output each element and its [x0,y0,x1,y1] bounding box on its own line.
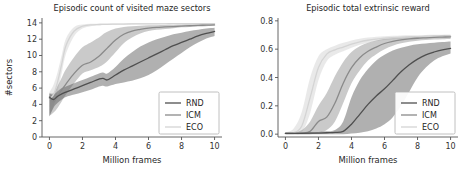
legend-label-eco: ECO [186,123,203,132]
y-tick-label: 10 [27,51,37,60]
chart-maze-sectors: Episodic count of visited maze sectors02… [0,0,236,174]
legend-label-rnd: RND [186,99,204,108]
chart-title: Episodic count of visited maze sectors [54,3,211,13]
chart-extrinsic-reward: Episodic total extrinsic reward02468100.… [236,0,472,174]
x-tick-label: 0 [47,142,52,151]
x-axis-label: Million frames [339,155,398,165]
panel-extrinsic-reward: Episodic total extrinsic reward02468100.… [236,0,472,174]
x-tick-label: 6 [382,142,387,151]
legend-label-icm: ICM [186,111,201,120]
y-tick-label: 12 [27,35,37,44]
x-tick-label: 8 [179,142,184,151]
x-tick-label: 4 [113,142,118,151]
panel-maze-sectors: Episodic count of visited maze sectors02… [0,0,236,174]
x-tick-label: 10 [209,142,219,151]
y-tick-label: 0.2 [260,102,273,111]
y-tick-label: 4 [32,100,37,109]
legend: RNDICMECO [159,92,219,134]
x-tick-label: 0 [283,142,288,151]
x-tick-label: 4 [349,142,354,151]
legend-label-eco: ECO [422,123,439,132]
y-tick-label: 0 [32,133,37,142]
y-axis-label: #sectors [4,59,14,96]
figure-two-panel-line-charts: Episodic count of visited maze sectors02… [0,0,472,174]
x-tick-label: 8 [415,142,420,151]
y-tick-label: 0.8 [260,17,273,26]
x-tick-label: 6 [146,142,151,151]
legend-label-icm: ICM [422,111,437,120]
y-tick-label: 0.0 [260,130,273,139]
legend: RNDICMECO [395,92,455,134]
y-tick-label: 8 [32,68,37,77]
y-tick-label: 14 [27,19,37,28]
y-tick-label: 0.6 [260,45,273,54]
legend-label-rnd: RND [422,99,440,108]
x-tick-label: 10 [445,142,455,151]
y-tick-label: 2 [32,117,37,126]
chart-title: Episodic total extrinsic reward [306,3,430,13]
y-tick-label: 6 [32,84,37,93]
x-tick-label: 2 [80,142,85,151]
x-tick-label: 2 [316,142,321,151]
x-axis-label: Million frames [103,155,162,165]
y-tick-label: 0.4 [260,74,273,83]
